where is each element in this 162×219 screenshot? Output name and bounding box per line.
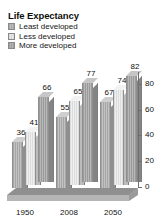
y-axis-tick-80: 80: [138, 84, 162, 85]
y-axis-tick-20: 20: [138, 161, 162, 162]
bar-front-face: [100, 102, 111, 188]
plot-area: 364166556577677482 020406080 1950 2008 2…: [0, 52, 162, 219]
x-axis-label-2008: 2008: [52, 208, 86, 217]
bar-value-label: 77: [80, 69, 102, 78]
bar-front-face: [38, 97, 49, 182]
bar-top-face: [38, 92, 54, 97]
bar-front-face: [113, 90, 124, 185]
bar-front-face: [126, 76, 137, 182]
y-axis-tick-label: 60: [145, 105, 154, 114]
legend-item-more-developed: More developed: [8, 41, 108, 50]
y-axis-tick-0: 0: [138, 187, 162, 188]
bar-front-face: [12, 142, 23, 188]
y-axis-tick-label: 40: [145, 130, 154, 139]
bar-front-face: [82, 83, 93, 182]
chart-floor-top: [7, 188, 138, 195]
y-axis-tick-label: 0: [145, 182, 149, 191]
bar-value-label: 66: [36, 83, 58, 92]
y-axis-tick-60: 60: [138, 110, 162, 111]
chart-legend: Least developed Less developed More deve…: [8, 22, 108, 51]
bar-top-face: [82, 78, 98, 83]
legend-swatch-icon-less-developed: [8, 33, 15, 40]
chart-title: Life Expectancy: [8, 10, 79, 21]
bar-front-face: [56, 117, 67, 188]
chart-floor-front: [7, 195, 129, 201]
bar-value-label: 82: [124, 62, 146, 71]
legend-label-more-developed: More developed: [19, 41, 76, 50]
bar-front-face: [25, 132, 36, 185]
bar-side-face: [93, 83, 98, 182]
legend-label-least-developed: Least developed: [19, 22, 78, 31]
y-axis-line: [138, 72, 141, 188]
life-expectancy-chart: Life Expectancy Least developed Less dev…: [0, 0, 162, 219]
x-axis-labels: 1950 2008 2050: [0, 205, 162, 217]
x-axis-label-1950: 1950: [8, 208, 42, 217]
legend-label-less-developed: Less developed: [19, 32, 75, 41]
legend-item-least-developed: Least developed: [8, 22, 108, 31]
legend-swatch-icon-more-developed: [8, 42, 15, 49]
y-axis-tick-40: 40: [138, 135, 162, 136]
legend-swatch-icon-least-developed: [8, 23, 15, 30]
y-axis-tick-label: 80: [145, 79, 154, 88]
x-axis-label-2050: 2050: [96, 208, 130, 217]
bar-front-face: [69, 101, 80, 185]
y-axis-tick-label: 20: [145, 156, 154, 165]
legend-item-less-developed: Less developed: [8, 32, 108, 41]
